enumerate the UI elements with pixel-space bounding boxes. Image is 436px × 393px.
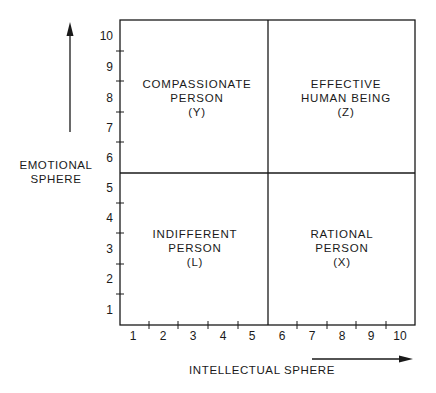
quadrant-diagram: EMOTIONAL SPHERE 1 2 3 4 5 6 7 8 9 10	[0, 0, 436, 393]
y-tick-7: 7	[106, 121, 113, 135]
quadrant-code: (Y)	[188, 106, 206, 118]
quadrant-subtitle: PERSON	[315, 242, 368, 254]
quadrant-top-left: COMPASSIONATE PERSON (Y)	[142, 78, 251, 118]
x-tick-3: 3	[190, 329, 197, 343]
y-tick-2: 2	[106, 272, 113, 286]
quadrant-code: (X)	[333, 256, 351, 268]
quadrant-title: EFFECTIVE	[311, 78, 381, 90]
x-tick-9: 9	[368, 329, 375, 343]
y-tick-10: 10	[100, 29, 114, 43]
quadrant-bottom-right: RATIONAL PERSON (X)	[310, 228, 373, 268]
emotional-arrow-icon	[67, 22, 74, 132]
y-tick-9: 9	[106, 60, 113, 74]
x-tick-5: 5	[249, 329, 256, 343]
quadrant-subtitle: PERSON	[168, 242, 221, 254]
quadrant-title: RATIONAL	[310, 228, 373, 240]
x-tick-1: 1	[130, 329, 137, 343]
y-tick-3: 3	[106, 242, 113, 256]
x-axis-tick-labels: 1 2 3 4 5 6 7 8 9 10	[130, 329, 407, 343]
y-axis-label-line1: EMOTIONAL	[19, 159, 92, 171]
quadrant-title: COMPASSIONATE	[142, 78, 251, 90]
quadrant-subtitle: PERSON	[170, 92, 223, 104]
x-tick-10: 10	[393, 329, 407, 343]
intellectual-arrow-icon	[312, 356, 413, 363]
quadrant-code: (Z)	[337, 106, 354, 118]
x-tick-6: 6	[279, 329, 286, 343]
quadrant-title: INDIFFERENT	[153, 228, 238, 240]
quadrant-code: (L)	[187, 256, 203, 268]
x-tick-2: 2	[160, 329, 167, 343]
x-axis-label: INTELLECTUAL SPHERE	[189, 364, 335, 376]
quadrant-top-right: EFFECTIVE HUMAN BEING (Z)	[301, 78, 391, 118]
x-tick-8: 8	[339, 329, 346, 343]
y-tick-1: 1	[106, 303, 113, 317]
quadrant-subtitle: HUMAN BEING	[301, 92, 391, 104]
y-tick-5: 5	[106, 181, 113, 195]
y-axis-tick-labels: 1 2 3 4 5 6 7 8 9 10	[100, 29, 114, 317]
x-tick-7: 7	[309, 329, 316, 343]
y-tick-6: 6	[106, 151, 113, 165]
y-axis-label-line2: SPHERE	[31, 173, 82, 185]
y-tick-4: 4	[106, 211, 113, 225]
x-tick-4: 4	[220, 329, 227, 343]
y-tick-8: 8	[106, 91, 113, 105]
quadrant-bottom-left: INDIFFERENT PERSON (L)	[153, 228, 238, 268]
